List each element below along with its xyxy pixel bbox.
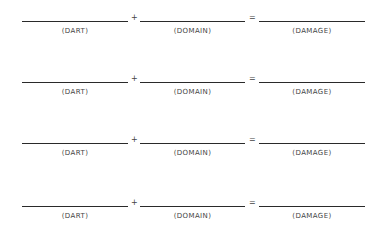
damage-blank[interactable] [259,143,365,144]
domain-blank[interactable] [140,206,245,207]
equals-sign: = [249,135,256,144]
damage-label: (DAMAGE) [259,88,365,96]
domain-label: (DOMAIN) [140,88,245,96]
equation-row-3: + = (DART) (DOMAIN) (DAMAGE) [0,143,382,173]
dart-blank[interactable] [22,21,128,22]
damage-blank[interactable] [259,82,365,83]
damage-label: (DAMAGE) [259,27,365,35]
plus-sign: + [131,198,138,207]
domain-blank[interactable] [140,143,245,144]
domain-blank[interactable] [140,82,245,83]
domain-blank[interactable] [140,21,245,22]
dart-blank[interactable] [22,206,128,207]
equals-sign: = [249,13,256,22]
damage-label: (DAMAGE) [259,149,365,157]
damage-blank[interactable] [259,21,365,22]
plus-sign: + [131,74,138,83]
dart-label: (DART) [22,149,128,157]
domain-label: (DOMAIN) [140,149,245,157]
plus-sign: + [131,13,138,22]
domain-label: (DOMAIN) [140,212,245,220]
plus-sign: + [131,135,138,144]
equals-sign: = [249,198,256,207]
damage-label: (DAMAGE) [259,212,365,220]
dart-blank[interactable] [22,143,128,144]
equation-row-4: + = (DART) (DOMAIN) (DAMAGE) [0,206,382,235]
equation-row-1: + = (DART) (DOMAIN) (DAMAGE) [0,21,382,51]
dart-blank[interactable] [22,82,128,83]
dart-label: (DART) [22,212,128,220]
domain-label: (DOMAIN) [140,27,245,35]
damage-blank[interactable] [259,206,365,207]
dart-label: (DART) [22,27,128,35]
equals-sign: = [249,74,256,83]
equation-row-2: + = (DART) (DOMAIN) (DAMAGE) [0,82,382,112]
dart-label: (DART) [22,88,128,96]
